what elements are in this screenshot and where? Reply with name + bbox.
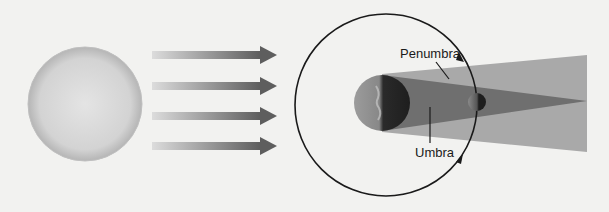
arrow-icon [152, 46, 277, 64]
arrow-icon [152, 77, 277, 95]
sun [28, 47, 142, 161]
earth [354, 75, 410, 131]
lunar-eclipse-diagram: Penumbra Umbra [0, 0, 609, 212]
sunlight-arrows [152, 46, 277, 155]
umbra-label: Umbra [415, 145, 455, 160]
arrow-icon [152, 137, 277, 155]
penumbra-label: Penumbra [400, 46, 461, 61]
arrow-icon [152, 107, 277, 125]
moon [468, 93, 486, 111]
